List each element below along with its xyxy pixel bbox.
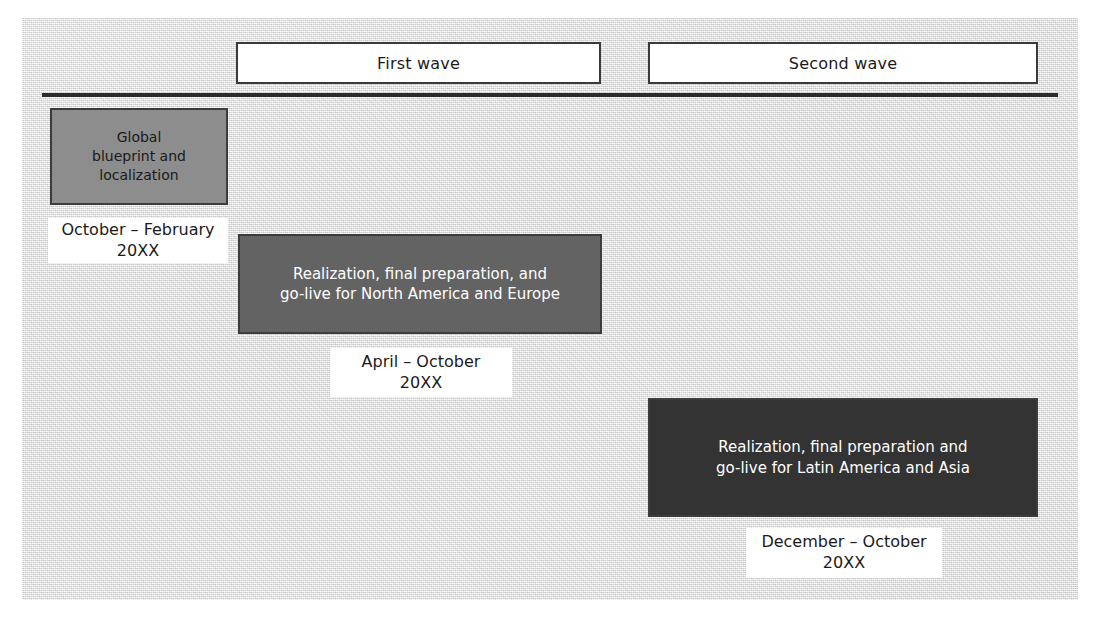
phase-date-realization-latam-asia-label: December – October 20XX <box>761 532 926 574</box>
phase-bar-blueprint: Global blueprint and localization <box>50 108 228 205</box>
phase-date-realization-na-eu-label: April – October 20XX <box>362 352 481 394</box>
wave-header-second-label: Second wave <box>789 54 897 73</box>
phase-bar-realization-latam-asia: Realization, final preparation and go-li… <box>648 398 1038 517</box>
phase-bar-realization-na-eu-label: Realization, final preparation, and go-l… <box>280 264 560 305</box>
phase-bar-blueprint-label: Global blueprint and localization <box>92 128 186 185</box>
phase-date-blueprint-label: October – February 20XX <box>61 220 214 262</box>
timeline-figure: First wave Second wave Global blueprint … <box>0 0 1100 620</box>
phase-bar-realization-na-eu: Realization, final preparation, and go-l… <box>238 234 602 334</box>
wave-header-first-label: First wave <box>377 54 460 73</box>
timeline-axis-rule <box>42 93 1058 97</box>
phase-date-realization-na-eu: April – October 20XX <box>330 348 512 397</box>
phase-date-realization-latam-asia: December – October 20XX <box>746 528 942 578</box>
phase-date-blueprint: October – February 20XX <box>48 218 228 263</box>
wave-header-second: Second wave <box>648 42 1038 84</box>
wave-header-first: First wave <box>236 42 601 84</box>
phase-bar-realization-latam-asia-label: Realization, final preparation and go-li… <box>716 437 970 478</box>
